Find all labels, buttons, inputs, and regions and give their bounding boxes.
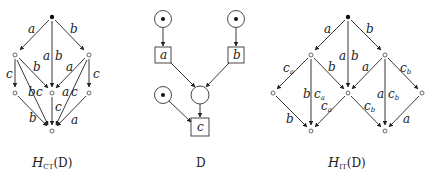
edge-label: c: [93, 67, 100, 81]
edge-label: b: [29, 111, 37, 125]
hit-caption: HIT(D): [327, 155, 366, 171]
edge-label: a: [324, 22, 331, 36]
edge-label: a: [71, 113, 78, 127]
hct-caption: HCT(D): [31, 155, 72, 171]
state-node: [420, 91, 424, 95]
transition-label: a: [160, 48, 167, 62]
token-icon: [234, 17, 238, 21]
state-node: [271, 91, 275, 95]
edge-label: cb: [400, 61, 412, 76]
state-node: [87, 91, 91, 95]
token-icon: [161, 93, 165, 97]
net-caption: D: [196, 156, 206, 170]
edge-label: b: [351, 49, 359, 63]
edge-label: b: [70, 22, 78, 36]
hit-graph: a a b b ca b a cb b ca a cb ca cb b a HI…: [271, 15, 424, 171]
edge-label: b: [303, 87, 311, 101]
final-state-node: [309, 129, 313, 133]
edge-label: c: [55, 100, 62, 114]
hct-graph: a a b b c b a c b c a c c b a HCT(D): [6, 15, 100, 171]
edge-label: a: [62, 85, 69, 99]
edge-label: b: [28, 85, 36, 99]
edge-label: a: [339, 49, 346, 63]
edge-label: b: [366, 22, 374, 36]
edge-label: c: [6, 67, 13, 81]
edge-label: b: [55, 49, 63, 63]
edge-label: b: [286, 112, 294, 126]
edge-label: cb: [388, 87, 400, 102]
edge-label: a: [377, 87, 384, 101]
edge-label: a: [43, 49, 50, 63]
edge-label: b: [328, 60, 336, 74]
edge-label: c: [36, 85, 43, 99]
edge-label: cb: [364, 99, 376, 114]
token-icon: [161, 17, 165, 21]
petri-net: a b c D: [155, 11, 245, 171]
state-node: [309, 53, 313, 57]
edge-label: a: [66, 60, 73, 74]
initial-state-node: [50, 15, 54, 19]
edge-label: a: [28, 22, 35, 36]
edge-label: c: [71, 85, 78, 99]
diagram-canvas: a a b b c b a c b c a c c b a HCT(D) a b: [0, 0, 435, 177]
initial-state-node: [346, 15, 350, 19]
final-state-node: [383, 129, 387, 133]
final-state-node: [50, 129, 54, 133]
transition-label: b: [233, 48, 241, 62]
place-empty: [191, 86, 209, 104]
edge-label: a: [403, 112, 410, 126]
edge-label: b: [33, 60, 41, 74]
state-node: [383, 53, 387, 57]
transition-label: c: [197, 120, 204, 134]
state-node: [50, 91, 54, 95]
state-node: [87, 53, 91, 57]
edge-label: ca: [321, 99, 332, 114]
edge-label: a: [362, 60, 369, 74]
state-node: [13, 91, 17, 95]
edge-label: ca: [283, 61, 294, 76]
state-node: [346, 91, 350, 95]
state-node: [13, 53, 17, 57]
